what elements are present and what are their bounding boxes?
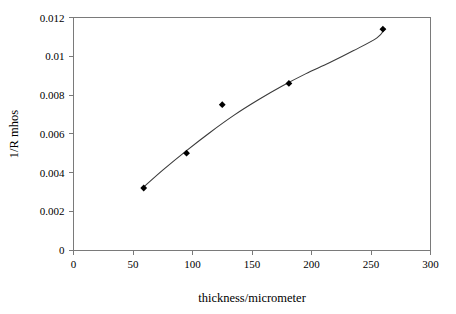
y-tick-label: 0.002 [40, 205, 65, 217]
y-axis-title: 1/R mhos [7, 110, 21, 158]
y-tick-label: 0 [59, 244, 65, 256]
y-tick-label: 0.006 [40, 128, 65, 140]
chart-background [0, 0, 456, 314]
x-tick-label: 300 [422, 258, 439, 270]
x-tick-label: 200 [303, 258, 320, 270]
x-axis-title: thickness/micrometer [198, 291, 306, 305]
y-tick-label: 0.008 [40, 89, 65, 101]
x-tick-label: 50 [128, 258, 140, 270]
y-tick-label: 0.004 [40, 167, 65, 179]
y-tick-label: 0.012 [40, 12, 65, 24]
chart-container: 050100150200250300 00.0020.0040.0060.008… [0, 0, 456, 314]
y-tick-label: 0.01 [45, 50, 64, 62]
x-tick-label: 150 [244, 258, 261, 270]
scatter-plot: 050100150200250300 00.0020.0040.0060.008… [0, 0, 456, 314]
x-tick-label: 0 [71, 258, 77, 270]
x-tick-label: 100 [184, 258, 201, 270]
x-tick-label: 250 [363, 258, 380, 270]
